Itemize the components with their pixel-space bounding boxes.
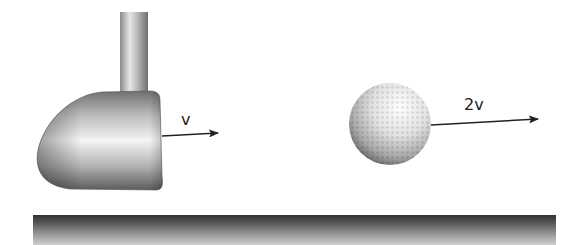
club-shaft	[120, 12, 148, 92]
ball-velocity-label: 2v	[464, 95, 484, 114]
club-velocity-arrow	[162, 133, 218, 136]
diagram-canvas	[0, 0, 579, 245]
club-velocity-label: v	[181, 110, 190, 129]
golf-ball	[349, 83, 431, 165]
ball-velocity-arrow	[431, 119, 538, 125]
collision-diagram: v 2v	[0, 0, 579, 245]
ground	[33, 215, 556, 245]
golf-club	[37, 12, 162, 190]
